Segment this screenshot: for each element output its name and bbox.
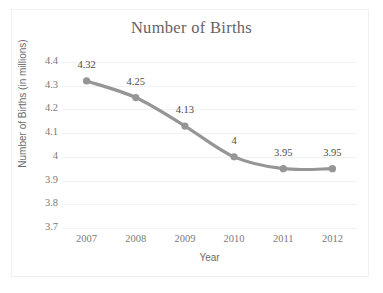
y-axis-tick-label: 4 (24, 150, 58, 161)
x-axis-tick-label: 2012 (304, 233, 360, 244)
y-axis-tick-label: 4.2 (24, 102, 58, 113)
chart-figure: Number of Births Number of Births (in mi… (0, 0, 383, 293)
y-axis-tick-labels: 4.44.34.24.143.93.83.7 (14, 62, 58, 228)
x-axis-tick-label: 2009 (157, 233, 213, 244)
y-axis-tick-label: 3.9 (24, 174, 58, 185)
y-axis-tick-label: 4.1 (24, 126, 58, 137)
chart-title: Number of Births (0, 18, 383, 38)
data-point-label: 4.25 (113, 76, 159, 87)
data-labels: 4.324.254.1343.953.95 (62, 62, 357, 228)
y-axis-tick-label: 4.4 (24, 55, 58, 66)
x-axis-tick-labels: 200720082009201020112012 (62, 233, 357, 249)
data-point-label: 4.13 (162, 104, 208, 115)
x-axis-tick-label: 2008 (108, 233, 164, 244)
y-axis-tick-label: 3.8 (24, 197, 58, 208)
data-point-label: 3.95 (260, 147, 306, 158)
data-point-label: 3.95 (309, 147, 355, 158)
data-point-label: 4 (211, 135, 257, 146)
x-axis-title: Year (62, 252, 357, 263)
gridline (62, 228, 357, 229)
x-axis-tick-label: 2007 (59, 233, 115, 244)
y-axis-tick-label: 4.3 (24, 79, 58, 90)
data-point-label: 4.32 (64, 59, 110, 70)
x-axis-tick-label: 2010 (206, 233, 262, 244)
y-axis-tick-label: 3.7 (24, 221, 58, 232)
x-axis-tick-label: 2011 (255, 233, 311, 244)
